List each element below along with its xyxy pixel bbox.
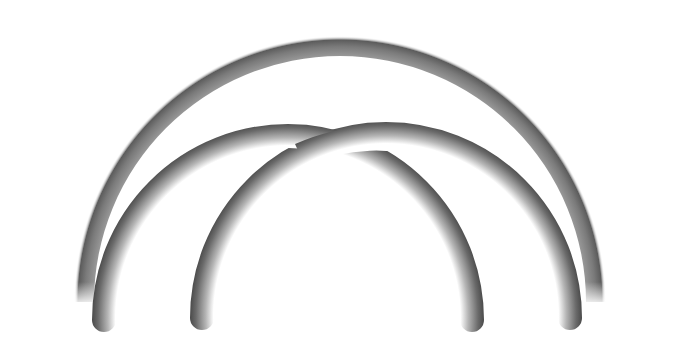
arcs-drawing bbox=[0, 0, 681, 348]
interlocking-arcs-illustration bbox=[0, 0, 681, 348]
